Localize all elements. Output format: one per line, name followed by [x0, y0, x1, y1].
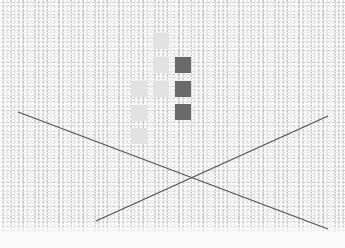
diagonal-line-ascending — [96, 116, 328, 221]
diagonal-line-descending — [18, 112, 328, 229]
textured-image — [0, 0, 345, 248]
crossing-lines — [0, 0, 345, 248]
